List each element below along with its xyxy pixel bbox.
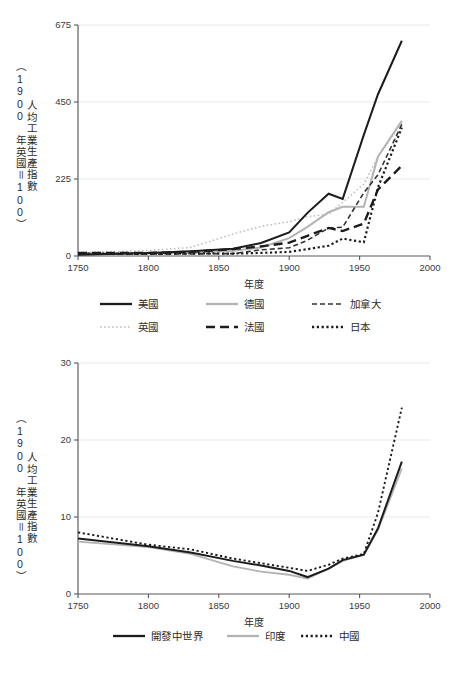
legend-item-法國[interactable]: 法國: [205, 319, 265, 334]
x-tick-label: 1950: [349, 262, 370, 273]
y-tick-label: 0: [66, 250, 71, 261]
bottom-chart-figure: （1900 年英國＝100） 人均工業生產指數 0102030175018001…: [0, 340, 464, 673]
legend-label: 加拿大: [350, 296, 381, 311]
legend-item-美國[interactable]: 美國: [99, 296, 159, 311]
legend-label: 英國: [138, 319, 159, 334]
x-axis-title: 年度: [244, 278, 264, 290]
legend-item-德國[interactable]: 德國: [205, 296, 265, 311]
series-line: [78, 123, 402, 253]
legend-label: 美國: [138, 296, 159, 311]
legend-row: 英國 法國 日本: [0, 319, 464, 342]
legend-swatch-中國: [300, 631, 334, 641]
series-line: [78, 41, 402, 255]
bottom-chart-plot: 0102030175018001850190019502000年度: [0, 340, 464, 630]
legend-label: 開發中世界: [151, 628, 203, 643]
legend-swatch-line: [99, 299, 133, 309]
legend-swatch-印度: [226, 631, 260, 641]
x-tick-label: 2000: [419, 600, 440, 611]
y-tick-label: 30: [60, 357, 71, 368]
y-tick-label: 0: [66, 588, 71, 599]
legend-swatch-法國: [205, 322, 239, 332]
legend-label: 印度: [265, 628, 286, 643]
series-line: [78, 408, 402, 571]
legend-swatch-日本: [311, 322, 345, 332]
x-tick-label: 1800: [138, 600, 159, 611]
top-chart-figure: （1900 年英國＝100） 人均工業生產指數 0225450675175018…: [0, 0, 464, 340]
y-tick-label: 10: [60, 511, 71, 522]
legend-item-英國[interactable]: 英國: [99, 319, 159, 334]
x-tick-label: 1850: [208, 262, 229, 273]
top-chart-plot: 0225450675175018001850190019502000年度: [0, 0, 464, 296]
legend-swatch-英國: [99, 322, 133, 332]
legend-swatch-開發中世界: [112, 631, 146, 641]
y-tick-label: 450: [55, 96, 71, 107]
y-tick-label: 675: [55, 19, 71, 30]
x-tick-label: 1950: [349, 600, 370, 611]
legend-swatch-line: [205, 299, 239, 309]
legend-swatch-line: [112, 631, 146, 641]
x-tick-label: 2000: [419, 262, 440, 273]
bottom-chart-y-axis-title: （1900 年英國＝100） 人均工業生產指數: [14, 390, 36, 605]
legend-swatch-加拿大: [311, 299, 345, 309]
legend-label: 日本: [350, 319, 371, 334]
x-tick-label: 1900: [279, 600, 300, 611]
y-tick-label: 20: [60, 434, 71, 445]
legend-item-中國[interactable]: 中國: [300, 628, 360, 643]
series-line: [78, 128, 402, 254]
series-line: [78, 124, 402, 254]
top-chart-y-axis-title-paren: （1900 年英國＝100）: [14, 61, 25, 230]
legend-swatch-line: [300, 631, 334, 641]
series-line: [78, 121, 402, 253]
legend-swatch-line: [311, 322, 345, 332]
x-tick-label: 1900: [279, 262, 300, 273]
legend-swatch-line: [311, 299, 345, 309]
top-chart-y-axis-title-main: 人均工業生產指數: [25, 100, 36, 192]
top-chart-legend: 美國 德國 加拿大 英國 法國 日本: [0, 296, 464, 342]
legend-label: 法國: [244, 319, 265, 334]
legend-item-印度[interactable]: 印度: [226, 628, 286, 643]
legend-swatch-美國: [99, 299, 133, 309]
y-tick-label: 225: [55, 173, 71, 184]
x-tick-label: 1750: [67, 600, 88, 611]
x-axis-title: 年度: [244, 616, 264, 628]
legend-swatch-德國: [205, 299, 239, 309]
bottom-chart-legend: 開發中世界 印度 中國: [0, 628, 464, 651]
legend-label: 德國: [244, 296, 265, 311]
bottom-chart-y-axis-title-paren: （1900 年英國＝100）: [14, 413, 25, 582]
top-chart-y-axis-title: （1900 年英國＝100） 人均工業生產指數: [14, 38, 36, 253]
x-tick-label: 1750: [67, 262, 88, 273]
x-tick-label: 1850: [208, 600, 229, 611]
legend-swatch-line: [99, 322, 133, 332]
legend-row: 美國 德國 加拿大: [0, 296, 464, 319]
bottom-chart-y-axis-title-main: 人均工業生產指數: [25, 452, 36, 544]
legend-label: 中國: [339, 628, 360, 643]
legend-item-日本[interactable]: 日本: [311, 319, 371, 334]
x-tick-label: 1800: [138, 262, 159, 273]
legend-item-加拿大[interactable]: 加拿大: [311, 296, 381, 311]
legend-swatch-line: [226, 631, 260, 641]
legend-item-開發中世界[interactable]: 開發中世界: [112, 628, 203, 643]
legend-swatch-line: [205, 322, 239, 332]
legend-row: 開發中世界 印度 中國: [0, 628, 464, 651]
